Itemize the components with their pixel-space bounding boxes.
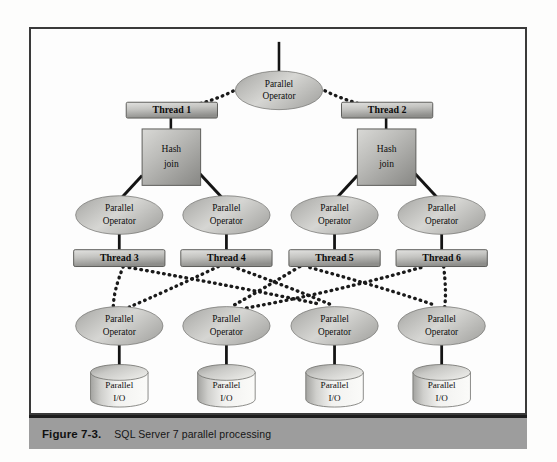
operator-mid-4-node[interactable]: Parallel Operator bbox=[398, 196, 485, 235]
parallel-io-1-node[interactable]: Parallel I/O bbox=[91, 365, 149, 408]
operator-mid-4-label-line1: Parallel bbox=[427, 203, 456, 213]
operator-bottom-3-label-line1: Parallel bbox=[320, 314, 349, 324]
parallel-io-1-cylinder-top bbox=[91, 365, 149, 381]
edge-thread3-operator5 bbox=[113, 267, 123, 308]
operator-bottom-3-label-line2: Operator bbox=[318, 327, 352, 337]
operator-mid-3-node[interactable]: Parallel Operator bbox=[291, 196, 378, 235]
operator-mid-3-ellipse bbox=[291, 196, 378, 235]
parallel-io-4-node[interactable]: Parallel I/O bbox=[413, 365, 471, 408]
hash-join-2-label-line1: Hash bbox=[377, 144, 397, 154]
operator-mid-4-label-line2: Operator bbox=[425, 216, 459, 226]
operator-bottom-4-label-line1: Parallel bbox=[427, 314, 456, 324]
operator-mid-1-label-line2: Operator bbox=[103, 216, 137, 226]
root-operator-label-line2: Operator bbox=[262, 91, 296, 101]
operator-mid-1-label-line1: Parallel bbox=[105, 203, 134, 213]
operator-mid-2-label-line1: Parallel bbox=[212, 203, 241, 213]
hash-join-2-box bbox=[357, 129, 416, 185]
operator-mid-2-label-line2: Operator bbox=[210, 216, 244, 226]
thread-3-node[interactable]: Thread 3 bbox=[74, 250, 165, 267]
operator-mid-1-ellipse bbox=[76, 196, 163, 235]
figure-caption-bar: Figure 7-3. SQL Server 7 parallel proces… bbox=[29, 415, 527, 449]
operator-bottom-2-label-line2: Operator bbox=[210, 327, 244, 337]
hash-join-1-node[interactable]: Hash join bbox=[142, 129, 201, 185]
thread-5-label: Thread 5 bbox=[315, 252, 354, 263]
figure-container: Parallel Operator Thread 1 Thread 2 Hash… bbox=[0, 0, 557, 462]
parallel-io-3-label-line1: Parallel bbox=[321, 380, 349, 390]
thread-4-node[interactable]: Thread 4 bbox=[181, 250, 272, 267]
hash-join-1-label-line2: join bbox=[163, 159, 179, 169]
operator-mid-3-label-line1: Parallel bbox=[320, 203, 349, 213]
operator-bottom-1-label-line1: Parallel bbox=[105, 314, 134, 324]
parallel-io-1-label-line1: Parallel bbox=[105, 380, 133, 390]
parallel-io-2-label-line2: I/O bbox=[220, 393, 233, 403]
edge-thread4-operator7 bbox=[232, 267, 329, 305]
hash-join-1-box bbox=[142, 129, 201, 185]
operator-bottom-1-node[interactable]: Parallel Operator bbox=[76, 307, 163, 346]
operator-bottom-2-label-line1: Parallel bbox=[212, 314, 241, 324]
figure-number: Figure 7-3. bbox=[42, 428, 101, 440]
edge-thread5-operator6 bbox=[232, 267, 299, 307]
parallel-io-3-node[interactable]: Parallel I/O bbox=[306, 365, 364, 408]
hash-join-2-node[interactable]: Hash join bbox=[357, 129, 416, 185]
thread-6-node[interactable]: Thread 6 bbox=[396, 250, 487, 267]
edge-thread4-operator5 bbox=[129, 267, 218, 308]
parallel-io-3-label-line2: I/O bbox=[328, 393, 341, 403]
operator-bottom-1-label-line2: Operator bbox=[103, 327, 137, 337]
operator-bottom-4-ellipse bbox=[398, 307, 485, 346]
operator-mid-2-node[interactable]: Parallel Operator bbox=[183, 196, 270, 235]
edge-thread6-operator8 bbox=[444, 267, 446, 308]
hash-join-1-label-line1: Hash bbox=[162, 144, 182, 154]
parallel-io-4-label-line2: I/O bbox=[436, 393, 449, 403]
parallel-processing-diagram: Parallel Operator Thread 1 Thread 2 Hash… bbox=[31, 29, 525, 413]
thread-4-label: Thread 4 bbox=[207, 252, 246, 263]
hash-join-2-label-line2: join bbox=[378, 159, 394, 169]
operator-mid-2-ellipse bbox=[183, 196, 270, 235]
operator-bottom-3-node[interactable]: Parallel Operator bbox=[291, 307, 378, 346]
operator-bottom-2-ellipse bbox=[183, 307, 270, 346]
root-operator-label-line1: Parallel bbox=[265, 79, 294, 89]
parallel-io-4-cylinder-top bbox=[413, 365, 471, 381]
thread-5-node[interactable]: Thread 5 bbox=[289, 250, 380, 267]
dotted-edges-mesh-group bbox=[113, 267, 445, 310]
operator-bottom-1-ellipse bbox=[76, 307, 163, 346]
operator-bottom-4-node[interactable]: Parallel Operator bbox=[398, 307, 485, 346]
figure-frame: Parallel Operator Thread 1 Thread 2 Hash… bbox=[29, 27, 527, 415]
thread-3-label: Thread 3 bbox=[100, 252, 139, 263]
root-operator-node[interactable]: Parallel Operator bbox=[235, 71, 322, 110]
parallel-io-1-label-line2: I/O bbox=[113, 393, 126, 403]
operator-mid-3-label-line2: Operator bbox=[318, 216, 352, 226]
operator-bottom-3-ellipse bbox=[291, 307, 378, 346]
parallel-io-3-cylinder-top bbox=[306, 365, 364, 381]
figure-caption-text: SQL Server 7 parallel processing bbox=[114, 428, 271, 440]
parallel-io-2-label-line1: Parallel bbox=[212, 380, 240, 390]
operator-mid-1-node[interactable]: Parallel Operator bbox=[76, 196, 163, 235]
thread-6-label: Thread 6 bbox=[422, 252, 461, 263]
parallel-io-2-node[interactable]: Parallel I/O bbox=[198, 365, 256, 408]
root-operator-ellipse bbox=[235, 71, 322, 110]
parallel-io-2-cylinder-top bbox=[198, 365, 256, 381]
thread-1-node[interactable]: Thread 1 bbox=[126, 102, 217, 118]
edge-thread5-operator8 bbox=[310, 268, 435, 306]
operator-bottom-4-label-line2: Operator bbox=[425, 327, 459, 337]
thread-2-label: Thread 2 bbox=[368, 104, 407, 115]
parallel-io-4-label-line1: Parallel bbox=[428, 380, 456, 390]
thread-2-node[interactable]: Thread 2 bbox=[341, 102, 432, 118]
thread-1-label: Thread 1 bbox=[153, 104, 192, 115]
operator-mid-4-ellipse bbox=[398, 196, 485, 235]
operator-bottom-2-node[interactable]: Parallel Operator bbox=[183, 307, 270, 346]
